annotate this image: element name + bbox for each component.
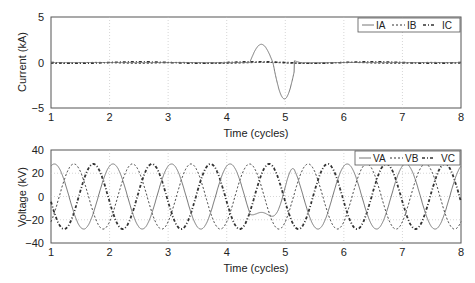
legend: VA VB VC	[355, 151, 460, 165]
y-tick: 0	[38, 191, 44, 203]
x-tick: 3	[165, 246, 171, 258]
y-tick: 20	[32, 167, 44, 179]
y-tick: −20	[25, 214, 44, 226]
x-tick: 5	[282, 111, 288, 123]
x-tick: 4	[224, 246, 230, 258]
legend-vb: VB	[405, 153, 419, 164]
x-tick: 1	[48, 111, 54, 123]
y-tick-minus5: −5	[31, 102, 44, 114]
x-axis-label: Time (cycles)	[224, 262, 289, 274]
x-tick: 6	[341, 111, 347, 123]
x-tick: 8	[458, 246, 464, 258]
x-tick: 4	[224, 111, 230, 123]
current-plot: 12345678 5 0 −5 Current (kA) Time (cycle…	[16, 11, 464, 139]
x-tick: 3	[165, 111, 171, 123]
chart-canvas: 12345678 5 0 −5 Current (kA) Time (cycle…	[0, 0, 475, 283]
x-tick: 8	[458, 111, 464, 123]
x-tick: 7	[399, 111, 405, 123]
legend-ia: IA	[376, 20, 386, 31]
voltage-plot: 12345678 40200−20−40 Voltage (kV) Time (…	[16, 144, 464, 274]
legend-ic: IC	[442, 20, 452, 31]
x-tick: 7	[399, 246, 405, 258]
x-tick: 5	[282, 246, 288, 258]
y-tick-5: 5	[38, 11, 44, 23]
legend-ib: IB	[407, 20, 417, 31]
legend-va: VA	[373, 153, 386, 164]
x-axis-label: Time (cycles)	[224, 127, 289, 139]
x-tick: 1	[48, 246, 54, 258]
legend: IA IB IC	[358, 18, 460, 32]
legend-vc: VC	[441, 153, 455, 164]
y-axis-label: Current (kA)	[16, 32, 28, 92]
x-tick: 2	[107, 246, 113, 258]
y-tick: −40	[25, 237, 44, 249]
y-tick: 40	[32, 144, 44, 156]
y-axis-label: Voltage (kV)	[16, 167, 28, 227]
x-tick: 6	[341, 246, 347, 258]
x-tick: 2	[107, 111, 113, 123]
y-tick-0: 0	[38, 57, 44, 69]
